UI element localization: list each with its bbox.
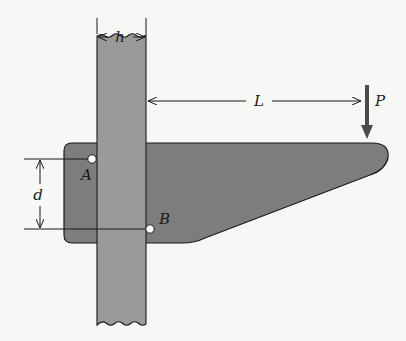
bracket-diagram: h L P d A B [0,0,406,341]
arrow-down-icon [361,125,373,139]
load-arrow: P [361,85,386,139]
d-label: d [33,186,43,204]
column [97,34,146,326]
L-label: L [253,92,264,110]
B-label: B [158,210,170,228]
L-dimension: L [148,92,361,110]
P-label: P [374,92,386,110]
h-label: h [115,28,125,46]
A-label: A [79,166,92,184]
